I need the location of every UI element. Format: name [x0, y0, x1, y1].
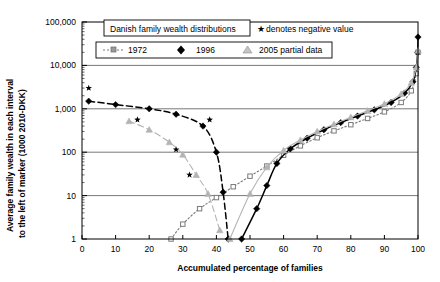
- legend-label-1972: 1972: [128, 45, 147, 55]
- x-tick-label: 70: [312, 244, 322, 254]
- negative-value-star-icon: [173, 146, 179, 152]
- legend-series-box: 1972 1996 2005 partial data: [96, 42, 332, 58]
- series-line-1996: [242, 37, 418, 239]
- y-axis-title-line1: Average family wealth in each interval: [5, 79, 15, 232]
- square-marker-icon: [315, 136, 319, 140]
- square-marker-icon: [349, 123, 353, 127]
- diamond-marker-icon: [86, 98, 92, 104]
- x-axis-title: Accumulated percentage of families: [177, 263, 323, 273]
- triangle-marker-icon: [193, 172, 199, 178]
- x-tick-label: 0: [80, 244, 85, 254]
- chart-svg: Average family wealth in each interval t…: [0, 0, 440, 282]
- legend-label-1996: 1996: [196, 45, 215, 55]
- diamond-marker-icon: [220, 189, 226, 195]
- triangle-marker-icon: [126, 118, 132, 124]
- negative-value-star-icon: [206, 116, 212, 122]
- square-marker-icon: [248, 174, 252, 178]
- triangle-marker-icon: [205, 191, 211, 197]
- y-tick-label: 1: [71, 234, 76, 244]
- triangle-marker-icon: [146, 126, 152, 132]
- y-tick-labels: 1101001,00010,000100,000: [45, 17, 76, 244]
- series-line-2005: [129, 121, 220, 230]
- x-tick-labels: 0102030405060708090100: [80, 244, 426, 254]
- x-tick-label: 20: [144, 244, 154, 254]
- x-tick-label: 10: [111, 244, 121, 254]
- y-tick-label: 100,000: [45, 17, 76, 27]
- diamond-marker-icon: [146, 106, 152, 112]
- diamond-marker-icon: [254, 205, 260, 211]
- y-axis-title: Average family wealth in each interval t…: [5, 79, 27, 238]
- square-marker-icon: [214, 195, 218, 199]
- x-tick-label: 50: [245, 244, 255, 254]
- square-marker-icon: [409, 89, 413, 93]
- chart-figure: Average family wealth in each interval t…: [0, 0, 440, 282]
- negative-value-star-icon: [134, 116, 140, 122]
- x-tick-label: 60: [279, 244, 289, 254]
- negative-note-text: denotes negative value: [266, 24, 354, 34]
- square-marker-icon: [365, 116, 369, 120]
- y-tick-label: 10,000: [50, 60, 76, 70]
- negative-value-star-icon: [186, 171, 192, 177]
- y-tick-label: 1,000: [55, 104, 77, 114]
- triangle-marker-icon: [297, 137, 303, 143]
- triangle-marker-icon: [217, 227, 223, 233]
- legend-title-text: Danish family wealth distributions: [110, 24, 236, 34]
- diamond-marker-icon: [213, 149, 219, 155]
- negative-value-star-icon: [85, 85, 91, 91]
- x-tick-label: 30: [178, 244, 188, 254]
- series-line-1996: [89, 101, 228, 239]
- negative-value-note: ★ denotes negative value: [257, 24, 354, 34]
- square-marker-icon: [332, 129, 336, 133]
- square-marker-icon: [197, 206, 201, 210]
- square-marker-icon: [231, 185, 235, 189]
- y-tick-label: 100: [62, 147, 76, 157]
- triangle-marker-icon: [381, 101, 387, 107]
- diamond-marker-icon: [264, 182, 270, 188]
- square-marker-icon: [181, 222, 185, 226]
- x-tick-label: 100: [411, 244, 425, 254]
- y-tick-label: 10: [67, 191, 77, 201]
- square-marker-icon: [399, 100, 403, 104]
- diamond-marker-icon: [112, 101, 118, 107]
- square-marker-icon: [382, 110, 386, 114]
- x-tick-label: 40: [212, 244, 222, 254]
- y-axis-title-line2: to the left of marker (1000 2010-DKK): [17, 89, 27, 238]
- square-marker-icon: [111, 47, 116, 52]
- legend-label-2005: 2005 partial data: [259, 45, 323, 55]
- star-glyph-icon: ★: [257, 24, 265, 34]
- diamond-marker-icon: [173, 111, 179, 117]
- triangle-marker-icon: [247, 191, 253, 197]
- legend-title-box: Danish family wealth distributions: [104, 20, 250, 36]
- x-tick-label: 80: [346, 244, 356, 254]
- triangle-marker-icon: [166, 139, 172, 145]
- x-tick-label: 90: [380, 244, 390, 254]
- square-marker-icon: [298, 144, 302, 148]
